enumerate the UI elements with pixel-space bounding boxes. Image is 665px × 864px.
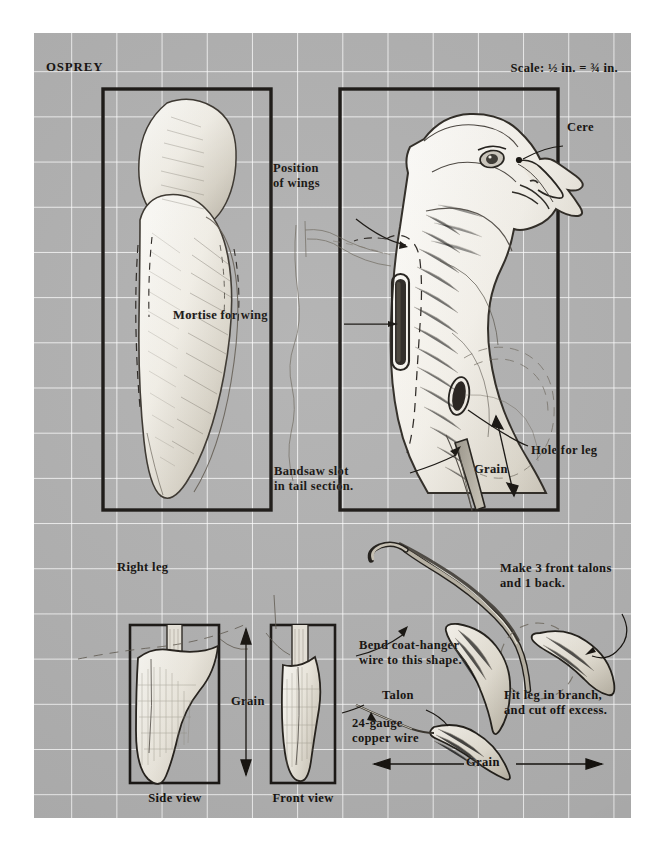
label-24-gauge-copper-wire: 24-gauge copper wire	[352, 716, 419, 747]
label-mortise-for-wing: Mortise for wing	[173, 308, 268, 323]
label-hole-for-leg: Hole for leg	[531, 443, 597, 458]
label-position-of-wings: Position of wings	[273, 161, 320, 192]
label-bend-coat-hanger-wire: Bend coat-hanger wire to this shape.	[359, 638, 462, 669]
label-talon: Talon	[382, 688, 414, 703]
label-grain-talon: Grain	[466, 755, 500, 770]
scale-note: Scale: ½ in. = ¾ in.	[403, 61, 618, 76]
top-view-figure	[103, 89, 271, 510]
grid-paper-plan: OSPREY Scale: ½ in. = ¾ in. Position of …	[34, 33, 631, 818]
label-right-leg: Right leg	[117, 560, 168, 575]
label-bandsaw-slot: Bandsaw slot in tail section.	[274, 464, 354, 495]
label-grain-side: Grain	[474, 462, 508, 477]
label-fit-leg-in-branch: Fit leg in branch, and cut off excess.	[504, 688, 607, 719]
caption-side-view: Side view	[129, 791, 221, 806]
plan-sheet-page: OSPREY Scale: ½ in. = ¾ in. Position of …	[0, 0, 665, 864]
label-grain-leg: Grain	[231, 694, 265, 709]
sheet-title: OSPREY	[46, 60, 103, 76]
label-cere: Cere	[567, 120, 594, 135]
caption-front-view: Front view	[268, 791, 338, 806]
leg-blank-side-view	[78, 625, 248, 784]
label-make-3-front-talons: Make 3 front talons and 1 back.	[500, 561, 612, 592]
leg-blank-front-view	[266, 595, 335, 783]
